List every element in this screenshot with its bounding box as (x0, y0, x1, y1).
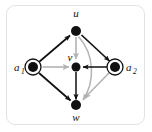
node-v[interactable]: v (68, 51, 81, 72)
node-a2-subscript: 2 (133, 67, 137, 76)
node-u-label: u (73, 7, 79, 19)
node-a2-label: a (126, 61, 132, 73)
edge-a2-to-w (85, 73, 110, 98)
node-a2-dot (110, 62, 120, 72)
node-a1[interactable]: a 1 (14, 59, 41, 76)
node-a1-label: a (14, 61, 20, 73)
edge-a1-to-w (39, 73, 71, 101)
node-w[interactable]: w (71, 100, 81, 123)
edge-u-to-w-curved (79, 37, 92, 101)
node-a2[interactable]: a 2 (107, 59, 137, 76)
graph-diagram: u a 1 v a 2 w (0, 0, 152, 132)
node-w-dot (71, 100, 81, 110)
node-u-dot (71, 26, 81, 36)
node-u[interactable]: u (71, 7, 81, 36)
node-w-label: w (72, 111, 80, 123)
node-a1-subscript: 1 (21, 67, 25, 76)
edge-a1-to-u (39, 36, 70, 63)
node-v-label: v (68, 51, 73, 63)
node-a1-dot (28, 62, 38, 72)
node-v-dot (72, 63, 81, 72)
